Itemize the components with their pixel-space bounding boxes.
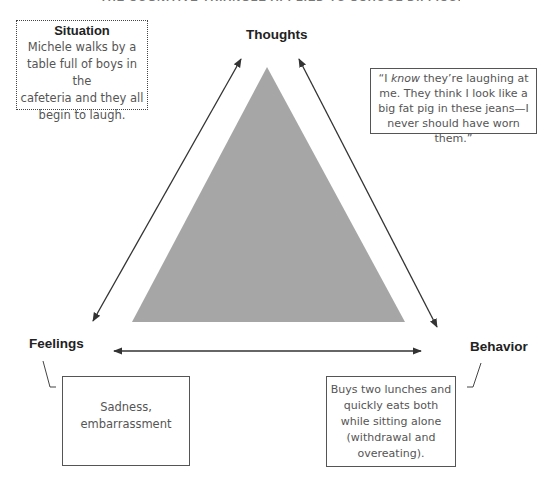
- situation-text-line: table full of boys in the: [17, 56, 147, 90]
- thoughts-text-line: “I know they’re laughing at: [377, 71, 530, 86]
- behavior-text-line: (withdrawal and: [327, 430, 455, 446]
- situation-text-line: begin to laugh.: [17, 107, 147, 124]
- thoughts-text-line: never should have worn: [377, 116, 530, 131]
- situation-text-line: Michele walks by a: [17, 39, 147, 56]
- situation-box: Situation Michele walks by a table full …: [16, 20, 148, 110]
- behavior-text-line: while sitting alone: [327, 414, 455, 430]
- situation-text-line: cafeteria and they all: [17, 90, 147, 107]
- behavior-text-line: quickly eats both: [327, 398, 455, 414]
- thoughts-quote-box: “I know they’re laughing at me. They thi…: [370, 68, 537, 134]
- feelings-box: Sadness, embarrassment: [62, 376, 190, 466]
- open-quote: “I: [379, 72, 391, 85]
- feelings-text-line: Sadness,: [63, 399, 189, 416]
- central-triangle: [132, 67, 405, 322]
- thoughts-text-line: me. They think I look like a: [377, 86, 530, 101]
- feelings-text-line: embarrassment: [63, 416, 189, 433]
- thoughts-text-line: them.”: [377, 131, 530, 146]
- vertex-label-thoughts: Thoughts: [246, 27, 307, 42]
- emphasis-word: know: [391, 72, 420, 85]
- behavior-callout-line: [467, 363, 481, 387]
- vertex-label-behavior: Behavior: [470, 339, 528, 354]
- behavior-box: Buys two lunches and quickly eats both w…: [326, 376, 456, 467]
- thoughts-text-line: big fat pig in these jeans—I: [377, 101, 530, 116]
- feelings-callout-line: [43, 361, 56, 387]
- behavior-text-line: overeating).: [327, 446, 455, 462]
- vertex-label-feelings: Feelings: [29, 336, 84, 351]
- situation-title: Situation: [17, 23, 147, 39]
- behavior-text-line: Buys two lunches and: [327, 382, 455, 398]
- line-rest: they’re laughing at: [420, 72, 528, 85]
